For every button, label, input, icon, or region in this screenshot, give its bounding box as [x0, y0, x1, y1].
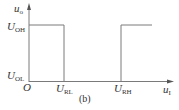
origin-label: O	[23, 81, 31, 93]
y-axis-arrow-icon	[27, 3, 31, 10]
high-level-label: UOH	[7, 20, 25, 34]
y-axis-label: uo	[14, 2, 24, 16]
figure-caption: (b)	[79, 93, 91, 105]
low-level-label: UOL	[7, 69, 24, 83]
upper-threshold-label: URH	[114, 82, 132, 96]
hysteresis-diagram: uo UOH UOL O URL URH uI (b)	[0, 0, 179, 110]
x-axis-label: uI	[163, 83, 172, 97]
lower-threshold-label: URL	[56, 82, 73, 96]
